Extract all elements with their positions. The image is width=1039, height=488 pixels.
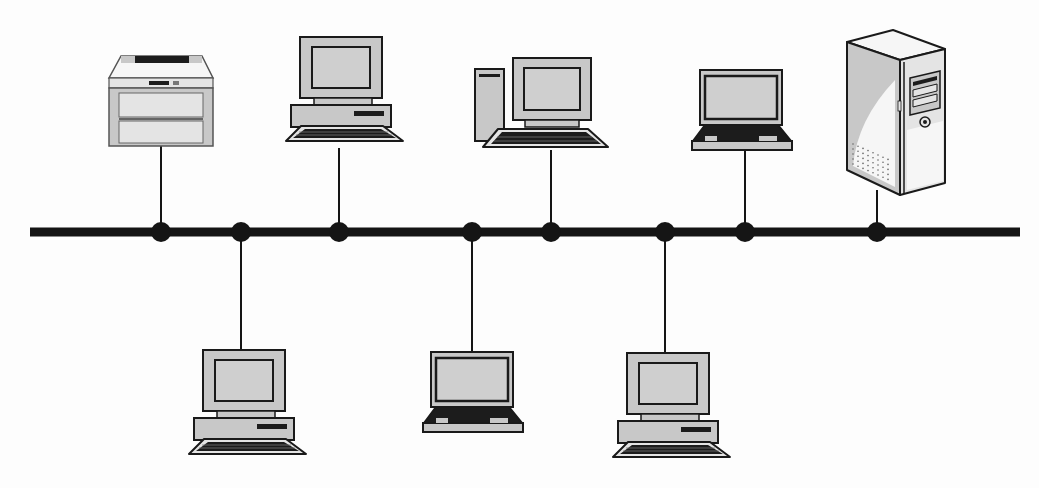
palm-rest-left — [705, 136, 717, 141]
monitor-screen — [312, 47, 370, 88]
palm-rest-left — [436, 418, 448, 423]
laptop-icon — [692, 70, 792, 150]
laptop-base — [423, 423, 523, 432]
palm-rest-right — [490, 418, 508, 423]
desktop-computer-icon — [189, 350, 306, 454]
monitor-screen — [215, 360, 273, 401]
tap-connector-pc-top-1 — [329, 222, 349, 242]
keyboard-keys — [620, 445, 723, 454]
printer-icon — [109, 56, 213, 146]
palm-rest-right — [759, 136, 777, 141]
monitor-stand — [525, 120, 579, 127]
paper-output-slot — [135, 56, 189, 63]
drive-slot — [257, 424, 287, 429]
door-latch — [898, 101, 901, 111]
tower-drive — [479, 74, 500, 77]
drive-slot — [681, 427, 711, 432]
bus-topology-diagram — [0, 0, 1039, 488]
tap-connector-tower-pc-top — [541, 222, 561, 242]
monitor-stand — [314, 98, 372, 105]
monitor-stand — [217, 411, 275, 418]
drive-slot — [354, 111, 384, 116]
keyboard-keys — [293, 129, 396, 138]
tap-connector-laptop-bottom-1 — [462, 222, 482, 242]
desktop-computer-icon — [613, 353, 730, 457]
tap-connector-pc-bottom-2 — [655, 222, 675, 242]
tap-connector-server — [867, 222, 887, 242]
monitor-screen — [524, 68, 580, 110]
monitor-stand — [641, 414, 699, 421]
keyboard-keys — [491, 132, 601, 144]
laptop-screen — [436, 358, 508, 401]
server-tower-icon — [847, 30, 945, 195]
paper-tray-1 — [119, 93, 203, 117]
monitor-screen — [639, 363, 697, 404]
tap-connector-laptop-top-1 — [735, 222, 755, 242]
drop-lines — [161, 146, 877, 353]
laptop-base — [692, 141, 792, 150]
desktop-computer-icon — [286, 37, 403, 141]
network-diagram-canvas — [0, 0, 1039, 488]
tower-computer-icon — [475, 58, 608, 147]
tap-connector-pc-bottom-1 — [231, 222, 251, 242]
laptop-screen — [705, 76, 777, 119]
paper-tray-2 — [119, 121, 203, 143]
laptop-icon — [423, 352, 523, 432]
display-panel — [149, 81, 169, 85]
tap-connector-printer — [151, 222, 171, 242]
keyboard-keys — [196, 442, 299, 451]
